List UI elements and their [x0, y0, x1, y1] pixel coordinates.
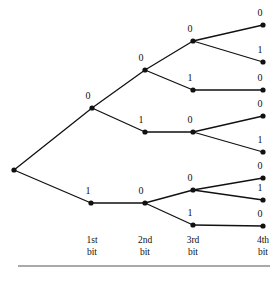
tree-edge-n101-n1010 — [193, 225, 263, 226]
tree-node-label-n0: 0 — [86, 90, 91, 101]
tree-edge-n00-n001 — [145, 70, 193, 90]
tree-node-label-n00: 0 — [139, 52, 144, 63]
tree-edge-root-n0 — [14, 108, 92, 170]
tree-node-n001[interactable] — [190, 87, 195, 92]
tree-node-n10[interactable] — [142, 200, 147, 205]
tree-node-n1000[interactable] — [260, 175, 265, 180]
tree-node-n0010[interactable] — [260, 87, 265, 92]
tree-node-n00[interactable] — [142, 67, 147, 72]
tree-node-label-n1010: 0 — [258, 208, 263, 219]
tree-node-n01[interactable] — [142, 129, 147, 134]
tree-node-label-n100: 0 — [188, 172, 193, 183]
axis-label-0-line2: bit — [87, 247, 97, 257]
tree-node-label-n1000: 0 — [258, 160, 263, 171]
tree-node-labels: 010100100101001010 — [86, 7, 263, 219]
axis-label-2-line1: 3rd — [187, 235, 200, 245]
axis-label-3-line2: bit — [258, 247, 268, 257]
tree-edge-n010-n0101 — [193, 132, 263, 152]
tree-node-n000[interactable] — [190, 38, 195, 43]
tree-edge-n0-n01 — [92, 108, 145, 132]
tree-edge-n010-n0100 — [193, 116, 263, 132]
tree-node-label-n0101: 1 — [258, 134, 263, 145]
tree-edge-n00-n000 — [145, 41, 193, 70]
tree-node-n100[interactable] — [190, 187, 195, 192]
tree-node-n0100[interactable] — [260, 113, 265, 118]
tree-node-n101[interactable] — [190, 222, 195, 227]
binary-tree-figure: 010100100101001010 1stbit2ndbit3rdbit4th… — [0, 0, 278, 281]
tree-node-n0[interactable] — [89, 105, 94, 110]
tree-node-label-n01: 1 — [139, 114, 144, 125]
tree-node-label-n101: 1 — [188, 207, 193, 218]
tree-node-label-n10: 0 — [139, 185, 144, 196]
tree-node-label-n0001: 1 — [258, 44, 263, 55]
tree-node-label-n0010: 0 — [258, 72, 263, 83]
tree-node-n010[interactable] — [190, 129, 195, 134]
axis-label-1-line2: bit — [140, 247, 150, 257]
axis-label-0-line1: 1st — [86, 235, 97, 245]
tree-edge-n10-n100 — [145, 190, 193, 203]
tree-edge-n100-n1001 — [193, 190, 263, 200]
tree-node-n0000[interactable] — [260, 22, 265, 27]
axis-labels: 1stbit2ndbit3rdbit4thbit — [86, 235, 269, 257]
axis-label-3-line1: 4th — [257, 235, 269, 245]
tree-node-label-n000: 0 — [188, 23, 193, 34]
tree-node-n1001[interactable] — [260, 197, 265, 202]
tree-node-label-n0100: 0 — [258, 98, 263, 109]
tree-node-label-n1: 1 — [86, 185, 91, 196]
tree-node-n0001[interactable] — [260, 59, 265, 64]
tree-node-label-n1001: 1 — [258, 182, 263, 193]
tree-node-label-n0000: 0 — [258, 7, 263, 18]
binary-tree-svg: 010100100101001010 1stbit2ndbit3rdbit4th… — [0, 0, 278, 281]
axis-label-1-line1: 2nd — [138, 235, 153, 245]
tree-node-n0101[interactable] — [260, 149, 265, 154]
tree-node-label-n001: 1 — [188, 72, 193, 83]
tree-node-n1010[interactable] — [260, 223, 265, 228]
tree-edge-n000-n0001 — [193, 41, 263, 62]
tree-edge-root-n1 — [14, 170, 91, 203]
tree-node-n1[interactable] — [88, 200, 93, 205]
axis-label-2-line2: bit — [188, 247, 198, 257]
tree-edge-n100-n1000 — [193, 178, 263, 190]
tree-edge-n000-n0000 — [193, 25, 263, 41]
tree-node-root[interactable] — [11, 167, 16, 172]
tree-node-label-n010: 0 — [188, 114, 193, 125]
tree-edge-n10-n101 — [145, 203, 193, 225]
tree-edge-n0-n00 — [92, 70, 145, 108]
